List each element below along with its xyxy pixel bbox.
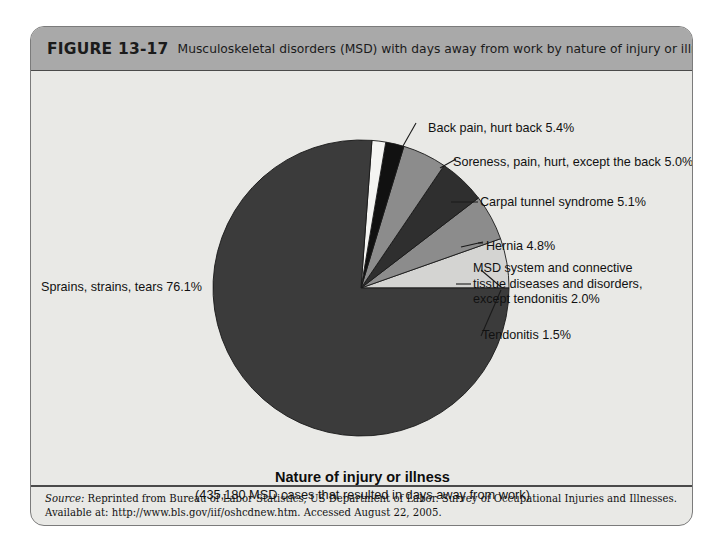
source-label: Source: [45,493,84,504]
pie-label-tendonitis: Tendonitis 1.5% [482,328,571,344]
pie-label-soreness: Soreness, pain, hurt, except the back 5.… [453,155,693,171]
pie-chart-area: Sprains, strains, tears 76.1% Back pain,… [31,71,693,483]
source-divider [31,485,692,487]
source-note: Source: Reprinted from Bureau of Labor S… [45,492,680,520]
figure-caption: Musculoskeletal disorders (MSD) with day… [178,42,693,56]
pie-label-msd-system: MSD system and connective tissue disease… [473,261,658,308]
figure-box: FIGURE 13-17 Musculoskeletal disorders (… [30,26,693,526]
axis-title: Nature of injury or illness [31,469,693,485]
leader-line-back-pain [403,123,416,146]
pie-label-hernia: Hernia 4.8% [486,239,555,255]
figure-number: FIGURE 13-17 [47,40,169,58]
pie-label-sprains: Sprains, strains, tears 76.1% [41,280,202,296]
pie-label-carpal-tunnel: Carpal tunnel syndrome 5.1% [480,195,646,211]
pie-label-back-pain: Back pain, hurt back 5.4% [428,121,574,137]
pie-wedges [213,140,509,436]
figure-header: FIGURE 13-17 Musculoskeletal disorders (… [31,27,692,71]
source-text: Reprinted from Bureau of Labor Statistic… [45,493,677,518]
